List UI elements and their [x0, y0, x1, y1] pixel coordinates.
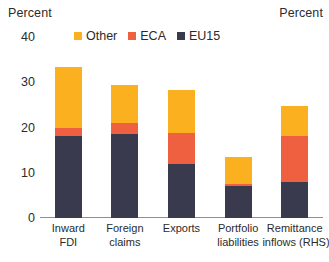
- stacked-bar-chart: Percent Percent Other ECA EU15 403020100…: [0, 0, 329, 262]
- x-axis-label-2: Foreignclaims: [93, 222, 158, 249]
- y-axis-tick-10: 10: [21, 166, 35, 180]
- y-axis-tick-30: 30: [21, 75, 35, 89]
- bar-segment-eu15: [281, 182, 308, 218]
- bar-segment-eu15: [55, 136, 82, 218]
- bar-group: [40, 37, 323, 218]
- x-axis-label-5: Remittanceinflows (RHS): [262, 222, 327, 249]
- bar-portfolio-liabilities[interactable]: [225, 157, 252, 218]
- y-axis-unit-label-left: Percent: [8, 6, 52, 20]
- x-axis-label-4: Portfolioliabilities: [206, 222, 271, 249]
- bar-segment-eca: [55, 128, 82, 136]
- bar-segment-eu15: [168, 164, 195, 218]
- bar-inward-fdi[interactable]: [55, 67, 82, 218]
- bar-remittance-inflows-rhs[interactable]: [281, 106, 308, 218]
- bar-segment-eu15: [111, 134, 138, 218]
- bar-segment-other: [111, 85, 138, 123]
- bar-segment-other: [55, 67, 82, 129]
- bar-segment-eca: [168, 133, 195, 164]
- y-axis-tick-20: 20: [21, 121, 35, 135]
- y-axis-tick-0: 0: [28, 211, 35, 225]
- bar-segment-other: [168, 90, 195, 133]
- x-axis-label-3: Exports: [149, 222, 214, 236]
- y-axis-unit-label-right: Percent: [279, 6, 323, 20]
- bar-foreign-claims[interactable]: [111, 85, 138, 218]
- y-axis-tick-40: 40: [21, 30, 35, 44]
- x-axis-category-labels: InwardFDIForeignclaimsExportsPortfolioli…: [40, 222, 323, 262]
- bar-segment-other: [225, 157, 252, 184]
- plot-area: 403020100: [40, 37, 323, 218]
- bar-segment-eu15: [225, 186, 252, 218]
- bar-exports[interactable]: [168, 90, 195, 218]
- bar-segment-eca: [111, 123, 138, 133]
- bar-segment-eca: [281, 136, 308, 182]
- x-axis-label-1: InwardFDI: [36, 222, 101, 249]
- bar-segment-other: [281, 106, 308, 136]
